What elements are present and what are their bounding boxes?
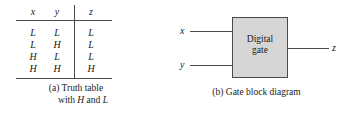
digital-gate-box: Digital gate xyxy=(232,17,288,78)
panel-gate-block-diagram: x y z Digital gate (b) Gate block diagra… xyxy=(170,0,341,117)
table-cell: L xyxy=(26,39,40,51)
caption-panel-b: (b) Gate block diagram xyxy=(184,86,329,98)
input-label-y: y xyxy=(180,59,184,71)
table-cell: H xyxy=(26,63,40,75)
gate-label-line1: Digital xyxy=(233,34,287,45)
panel-truth-table: x y z L L L L H L H L L H H H (a) Truth … xyxy=(0,0,170,117)
input-wire-y xyxy=(190,65,233,66)
table-vertical-divider xyxy=(74,5,75,78)
digital-gate-box-label: Digital gate xyxy=(233,34,287,56)
table-cell: H xyxy=(50,63,64,75)
caption-a-line1: (a) Truth table xyxy=(49,83,103,93)
table-header-y: y xyxy=(50,5,64,18)
table-cell: L xyxy=(50,27,64,39)
table-cell: L xyxy=(84,39,98,51)
caption-panel-a: (a) Truth table with H and L xyxy=(16,82,136,106)
table-cell: L xyxy=(84,51,98,63)
table-cell: H xyxy=(50,39,64,51)
table-rule-top xyxy=(16,20,112,21)
table-header-x: x xyxy=(26,5,40,18)
caption-a-with: with xyxy=(58,95,77,105)
table-cell: L xyxy=(84,27,98,39)
figure-logic-gate-truth-table-and-block-diagram: x y z L L L L H L H L L H H H (a) Truth … xyxy=(0,0,341,117)
table-cell: L xyxy=(26,27,40,39)
table-header-z: z xyxy=(84,5,98,18)
input-wire-x xyxy=(190,31,233,32)
table-rule-bottom xyxy=(16,78,112,79)
caption-a-line2: with H and L xyxy=(16,94,136,106)
gate-label-line2: gate xyxy=(233,45,287,56)
table-cell: L xyxy=(50,51,64,63)
caption-a-symbol-l: L xyxy=(103,95,108,105)
caption-a-and: and xyxy=(84,95,102,105)
output-label-z: z xyxy=(332,42,336,54)
output-wire-z xyxy=(287,48,329,49)
input-label-x: x xyxy=(180,25,184,37)
table-cell: H xyxy=(84,63,98,75)
table-cell: H xyxy=(26,51,40,63)
